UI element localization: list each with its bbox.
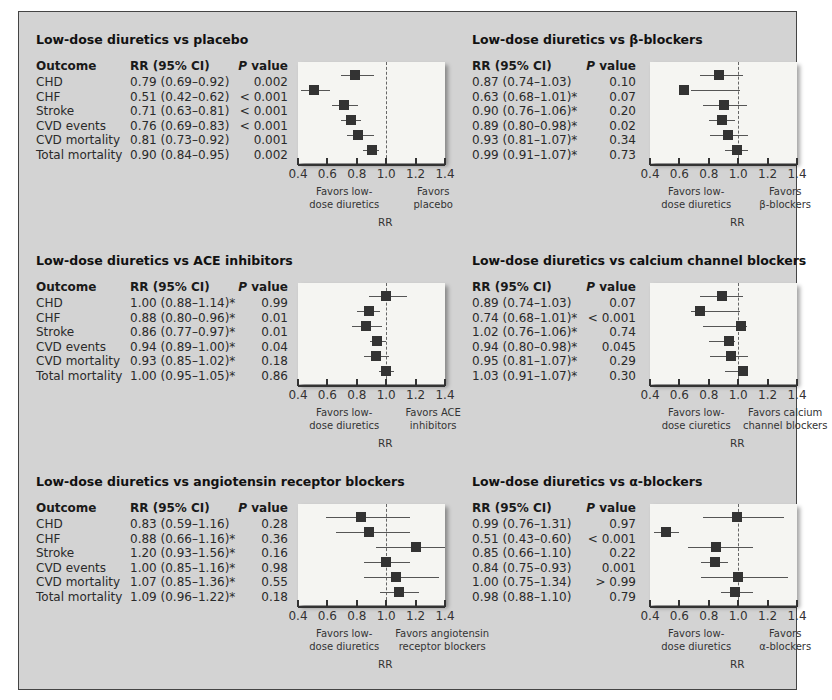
axis-tick [356,600,358,607]
panel-title: Low-dose diuretics vs α-blockers [472,474,702,489]
point-estimate [717,115,727,125]
x-axis-label: RR [378,437,393,449]
outcome-cell: CHD [36,296,63,310]
outcome-cell: CVD events [36,561,106,575]
axis-tick [767,379,769,386]
axis-tick-label: 1.0 [729,609,748,623]
axis-tick [444,600,446,607]
outcome-cell: Stroke [36,546,74,560]
point-estimate [350,70,360,80]
rr-cell: 1.09 (0.96–1.22)* [130,590,235,604]
axis-tick-label: 0.6 [670,167,689,181]
p-value-cell: 0.01 [222,311,288,325]
point-estimate [695,306,705,316]
axis-tick [385,158,387,165]
p-value-cell: 0.28 [222,517,288,531]
favors-left-label: Favors low- dose diuretics [654,627,738,653]
rr-cell: 0.71 (0.63–0.81) [130,104,229,118]
axis-tick [356,158,358,165]
point-estimate [724,336,734,346]
p-value-cell: 0.79 [570,590,636,604]
axis-tick-label: 1.0 [729,388,748,402]
point-estimate [364,306,374,316]
point-estimate [361,321,371,331]
rr-header: RR (95% CI) [130,280,210,294]
axis-tick [649,600,651,607]
axis-tick-label: 1.4 [787,388,806,402]
point-estimate [356,512,366,522]
axis-tick-label: 0.4 [288,167,307,181]
point-estimate [391,572,401,582]
p-value-header: P value [580,280,636,294]
axis-tick-label: 1.2 [406,609,425,623]
rr-header: RR (95% CI) [130,501,210,515]
point-estimate [726,351,736,361]
point-estimate [381,557,391,567]
rr-cell: 1.00 (0.75–1.34) [472,575,571,589]
axis-tick-label: 0.8 [699,167,718,181]
rr-cell: 0.88 (0.66–1.16)* [130,532,235,546]
outcome-header: Outcome [36,280,96,294]
panel-title: Low-dose diuretics vs angiotensin recept… [36,474,405,489]
axis-tick-label: 0.8 [699,388,718,402]
axis-tick [297,379,299,386]
rr-cell: 0.98 (0.88–1.10) [472,590,571,604]
outcome-header: Outcome [36,59,96,73]
outcome-cell: CHF [36,311,60,325]
x-axis-label: RR [730,658,745,670]
axis-tick [385,379,387,386]
confidence-interval [703,517,784,518]
axis-tick-label: 0.4 [288,609,307,623]
p-value-header: P value [580,501,636,515]
favors-left-label: Favors low- dose diuretics [654,185,738,211]
axis-tick-label: 1.2 [406,167,425,181]
x-axis [650,606,797,608]
rr-cell: 1.00 (0.95–1.05)* [130,369,235,383]
axis-tick [737,600,739,607]
favors-left-label: Favors low- dose ciuretics [654,406,738,432]
p-value-cell: 0.86 [222,369,288,383]
axis-tick-label: 0.8 [347,609,366,623]
axis-tick-label: 1.2 [758,388,777,402]
p-label: P [586,280,595,294]
point-estimate [710,557,720,567]
point-estimate [339,100,349,110]
axis-tick-label: 1.0 [377,609,396,623]
axis-tick-label: 0.6 [670,388,689,402]
p-value-cell: 0.04 [222,340,288,354]
axis-tick-label: 1.4 [435,388,454,402]
axis-tick [796,158,798,165]
rr-cell: 0.89 (0.80–0.98)* [472,119,577,133]
axis-tick [356,379,358,386]
point-estimate [730,587,740,597]
p-value-cell: 0.001 [570,561,636,575]
outcome-cell: CVD mortality [36,354,120,368]
outcome-cell: CVD events [36,119,106,133]
outcome-cell: Stroke [36,104,74,118]
axis-tick [444,158,446,165]
p-value-cell: < 0.001 [222,104,288,118]
outcome-cell: CHD [36,517,63,531]
rr-cell: 1.03 (0.91–1.07)* [472,369,577,383]
axis-tick-label: 0.4 [288,388,307,402]
p-label: P [586,501,595,515]
x-axis [650,164,797,166]
p-label: P [238,59,247,73]
favors-left-label: Favors low- dose diuretics [302,627,386,653]
axis-tick [796,379,798,386]
outcome-header: Outcome [36,501,96,515]
rr-cell: 0.94 (0.89–1.00)* [130,340,235,354]
rr-cell: 0.88 (0.80–0.96)* [130,311,235,325]
favors-right-label: Favors placebo [388,185,478,211]
rr-cell: 0.51 (0.42–0.62) [130,90,229,104]
confidence-interval [364,577,439,578]
point-estimate [394,587,404,597]
axis-tick [737,158,739,165]
p-value-cell: 0.001 [222,133,288,147]
axis-tick-label: 1.4 [787,609,806,623]
rr-cell: 0.79 (0.69–0.92) [130,75,229,89]
axis-tick [326,379,328,386]
favors-right-label: Favors α-blockers [740,627,830,653]
axis-tick [297,158,299,165]
favors-left-label: Favors low- dose diuretics [302,406,386,432]
